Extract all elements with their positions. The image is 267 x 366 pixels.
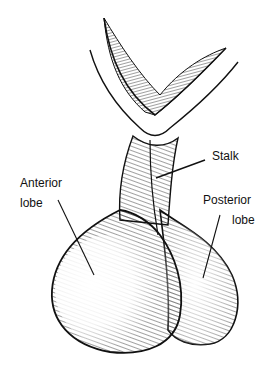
anterior-lobe-label-line2: lobe — [20, 196, 43, 210]
posterior-lobe-label-line1: Posterior — [203, 193, 251, 207]
anterior-lobe-label-line1: Anterior — [20, 176, 62, 190]
posterior-lobe-label-line2: lobe — [232, 213, 255, 227]
hypothalamus-region — [104, 18, 226, 115]
stalk-label: Stalk — [212, 149, 239, 163]
